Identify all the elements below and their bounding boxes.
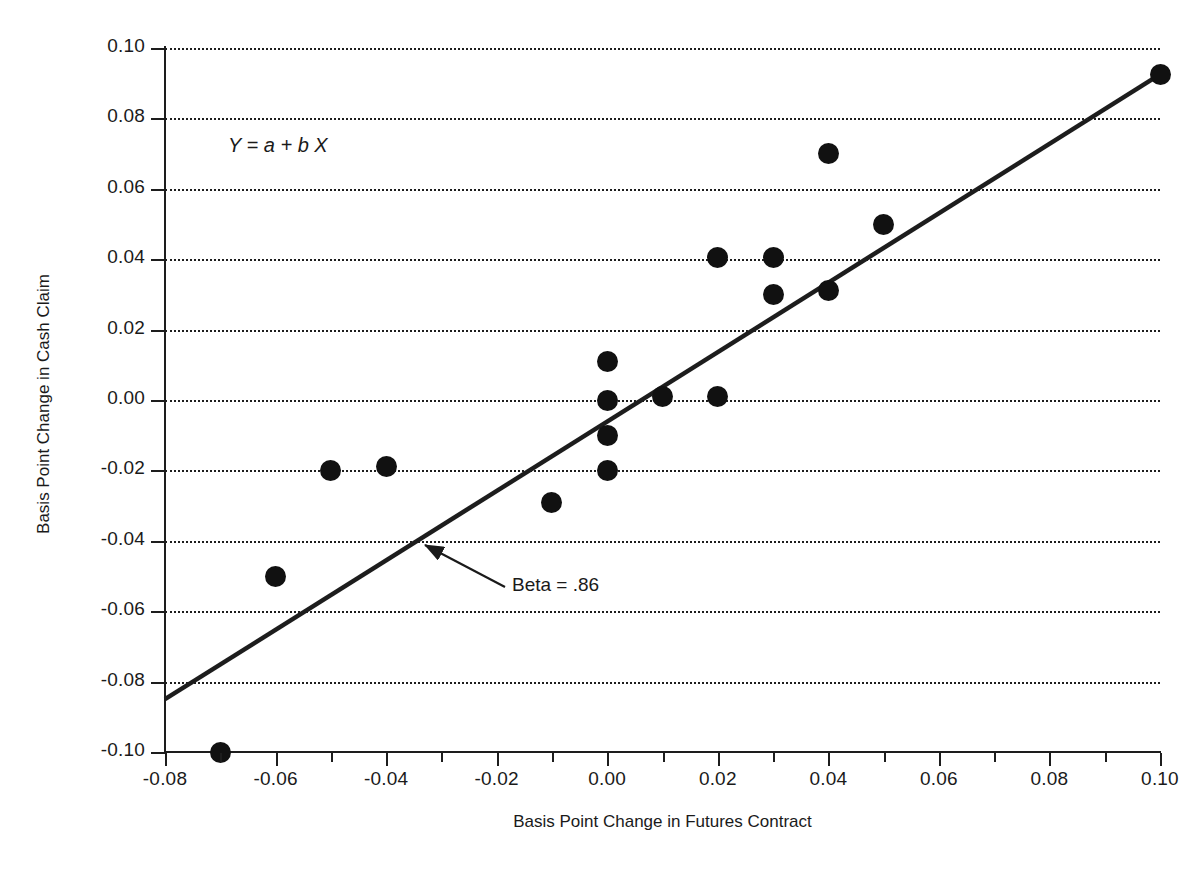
equation-annotation: Y = a + b X bbox=[228, 134, 328, 157]
x-axis-minor-tick bbox=[1105, 753, 1107, 762]
x-axis-tick bbox=[1160, 753, 1162, 766]
x-axis-minor-tick bbox=[552, 753, 554, 762]
y-axis-tick bbox=[151, 541, 165, 543]
gridline bbox=[165, 541, 1160, 543]
x-tick-label: 0.02 bbox=[663, 768, 773, 790]
x-tick-label: -0.04 bbox=[331, 768, 441, 790]
x-tick-label: -0.08 bbox=[110, 768, 220, 790]
x-axis-minor-tick bbox=[663, 753, 665, 762]
data-point bbox=[1150, 64, 1171, 85]
beta-annotation: Beta = .86 bbox=[512, 574, 599, 596]
y-axis-tick bbox=[151, 189, 165, 191]
y-axis-tick bbox=[151, 752, 165, 754]
gridline bbox=[165, 189, 1160, 191]
x-axis-tick bbox=[276, 753, 278, 766]
x-tick-label: 0.04 bbox=[773, 768, 883, 790]
y-tick-label-group: 0.100.080.060.040.020.00-0.02-0.04-0.06-… bbox=[0, 0, 145, 876]
y-tick-label: 0.06 bbox=[71, 176, 145, 198]
x-axis-minor-tick bbox=[331, 753, 333, 762]
gridline bbox=[165, 118, 1160, 120]
y-tick-label: 0.02 bbox=[71, 317, 145, 339]
x-axis-tick bbox=[1049, 753, 1051, 766]
x-axis-tick bbox=[828, 753, 830, 766]
x-tick-label: -0.06 bbox=[221, 768, 331, 790]
gridline bbox=[165, 48, 1160, 50]
y-axis-title: Basis Point Change in Cash Claim bbox=[34, 52, 54, 756]
x-tick-label: 0.06 bbox=[884, 768, 994, 790]
x-axis-tick bbox=[607, 753, 609, 766]
x-axis-title: Basis Point Change in Futures Contract bbox=[165, 812, 1160, 832]
x-axis-tick bbox=[386, 753, 388, 766]
scatter-plot-figure: 0.100.080.060.040.020.00-0.02-0.04-0.06-… bbox=[0, 0, 1196, 876]
gridline bbox=[165, 330, 1160, 332]
data-point bbox=[597, 425, 618, 446]
gridline bbox=[165, 611, 1160, 613]
x-axis-minor-tick bbox=[994, 753, 996, 762]
data-point bbox=[763, 284, 784, 305]
x-axis-minor-tick bbox=[884, 753, 886, 762]
data-point bbox=[541, 492, 562, 513]
y-axis-tick bbox=[151, 682, 165, 684]
data-point bbox=[652, 386, 673, 407]
gridline bbox=[165, 470, 1160, 472]
y-tick-label: 0.08 bbox=[71, 105, 145, 127]
y-tick-label: -0.04 bbox=[71, 528, 145, 550]
y-axis-tick bbox=[151, 470, 165, 472]
y-tick-label: -0.06 bbox=[71, 598, 145, 620]
x-axis-tick bbox=[497, 753, 499, 766]
data-point bbox=[818, 143, 839, 164]
y-tick-label: -0.10 bbox=[71, 739, 145, 761]
data-point bbox=[873, 214, 894, 235]
x-tick-label: 0.00 bbox=[552, 768, 662, 790]
y-tick-label: 0.00 bbox=[71, 387, 145, 409]
y-tick-label: 0.04 bbox=[71, 246, 145, 268]
y-axis-tick bbox=[151, 611, 165, 613]
y-axis-tick bbox=[151, 118, 165, 120]
x-axis-minor-tick bbox=[441, 753, 443, 762]
data-point bbox=[597, 390, 618, 411]
y-tick-label: 0.10 bbox=[71, 35, 145, 57]
x-axis-minor-tick bbox=[773, 753, 775, 762]
x-axis-tick bbox=[939, 753, 941, 766]
data-point bbox=[597, 460, 618, 481]
data-point bbox=[265, 566, 286, 587]
data-point bbox=[597, 351, 618, 372]
x-tick-label: 0.08 bbox=[994, 768, 1104, 790]
x-tick-label: -0.02 bbox=[442, 768, 552, 790]
y-axis-tick bbox=[151, 400, 165, 402]
gridline bbox=[165, 259, 1160, 261]
y-tick-label: -0.08 bbox=[71, 669, 145, 691]
y-axis-tick bbox=[151, 330, 165, 332]
y-axis-tick bbox=[151, 259, 165, 261]
y-tick-label: -0.02 bbox=[71, 457, 145, 479]
y-axis-tick bbox=[151, 48, 165, 50]
x-axis-minor-tick bbox=[220, 753, 222, 762]
x-tick-label: 0.10 bbox=[1105, 768, 1196, 790]
data-point bbox=[763, 247, 784, 268]
x-axis-tick bbox=[165, 753, 167, 766]
data-point bbox=[376, 456, 397, 477]
gridline bbox=[165, 682, 1160, 684]
x-axis-tick bbox=[718, 753, 720, 766]
